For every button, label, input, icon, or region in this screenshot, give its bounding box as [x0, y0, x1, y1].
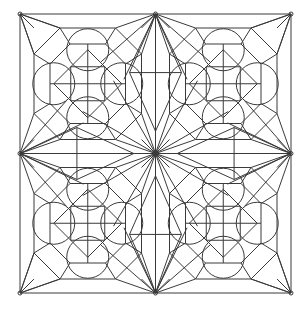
- outer-corner-ray-tl-a: [20, 14, 60, 28]
- band-link-bl-v: [34, 104, 50, 114]
- outer-corner-ray-tr-a: [251, 14, 291, 28]
- band-link-tl-v: [34, 54, 50, 64]
- geometric-pattern-artwork: Symmetric Geometric Mandala Pattern: [0, 0, 307, 309]
- outer-corner-ray-tr-b: [277, 14, 291, 54]
- outer-corner-ray-bl-b: [20, 253, 34, 293]
- outer-corner-ray-br-b: [277, 253, 291, 293]
- band-link-br-v: [261, 243, 277, 253]
- outer-corner-ray-br-a: [251, 279, 291, 293]
- outer-corner-ray-bl-a: [20, 279, 60, 293]
- outer-corner-ray-tl-b: [20, 14, 34, 54]
- band-link-tr-v: [261, 194, 277, 204]
- band-link-tl-v: [34, 194, 50, 204]
- band-link-br-v: [261, 104, 277, 114]
- pattern-root-group: [18, 12, 293, 295]
- band-link-bl-v: [34, 243, 50, 253]
- band-link-tr-v: [261, 54, 277, 64]
